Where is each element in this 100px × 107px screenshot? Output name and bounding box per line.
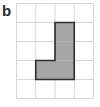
shaded-cell xyxy=(55,23,74,42)
shaded-cell xyxy=(55,61,74,80)
shaded-cell xyxy=(55,42,74,61)
grid-diagram xyxy=(0,0,100,107)
shaded-cell xyxy=(36,61,55,80)
